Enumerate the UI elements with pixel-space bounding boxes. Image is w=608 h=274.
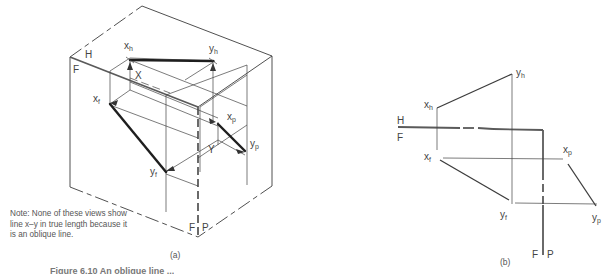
line-xp-yp — [218, 124, 245, 151]
label-H-b: H — [397, 115, 404, 126]
label-yh-b: yh — [516, 67, 525, 79]
view-a-glass-box — [70, 6, 272, 237]
hf-fold-b-1 — [398, 127, 460, 128]
caption-a: (a) — [170, 250, 180, 260]
arrow-to-yf — [166, 166, 175, 171]
line-xh-yh-b — [437, 74, 512, 108]
label-F-b: F — [397, 132, 403, 143]
label-H-a: H — [85, 49, 92, 60]
hf-fold-b-3 — [478, 128, 493, 129]
inner-top-left — [110, 58, 130, 71]
label-Y: Y — [208, 144, 215, 155]
label-xp-b: xp — [563, 144, 572, 157]
caption-b: (b) — [500, 257, 510, 267]
label-xh-a: xh — [124, 40, 133, 52]
label-xf-b: xf — [424, 151, 431, 163]
hf-fold-line — [70, 57, 198, 107]
label-P-a: P — [202, 222, 209, 233]
view-b-labels: H F xh yh xf xp yf yp F P — [397, 67, 601, 260]
note-text: Note: None of these views show line x–y … — [10, 209, 130, 241]
label-yp-b: yp — [592, 212, 601, 225]
label-F-a: F — [73, 64, 79, 75]
inner-projector-3 — [130, 60, 247, 106]
label-F-bottom-a: F — [189, 222, 195, 233]
label-xf-a: xf — [93, 93, 100, 105]
hf-fold-b-4 — [493, 129, 543, 130]
inner-projector-4 — [130, 82, 218, 118]
arrow-to-xh — [127, 62, 133, 70]
yf-to-fold — [166, 174, 198, 186]
inner-h-right — [166, 65, 247, 95]
box-bottom-right-edge — [198, 186, 272, 237]
figure-caption-clipped: Figure 6.10 An oblique line ... — [50, 266, 174, 274]
line-xh-yh — [130, 60, 213, 61]
label-X: X — [135, 70, 142, 81]
label-yf-b: yf — [500, 209, 507, 221]
xf-xp-projector — [443, 158, 563, 159]
label-yh-a: yh — [209, 43, 218, 55]
label-xh-b: xh — [424, 99, 433, 111]
line-xf-yf — [110, 104, 166, 172]
yf-yp-projector — [515, 203, 597, 204]
hp-edge — [198, 56, 272, 107]
line-xf-yf-b — [440, 160, 509, 200]
label-yp-a: yp — [250, 138, 259, 151]
label-xp-a: xp — [227, 111, 236, 124]
label-F-bottom-b: F — [532, 249, 538, 260]
arrow-to-xp — [209, 118, 216, 124]
inner-projector-5 — [130, 90, 218, 126]
label-yf-a: yf — [150, 166, 157, 178]
box-top-back-right-edge — [142, 6, 272, 56]
line-xp-yp-b — [568, 164, 596, 206]
label-P-b: P — [547, 249, 554, 260]
